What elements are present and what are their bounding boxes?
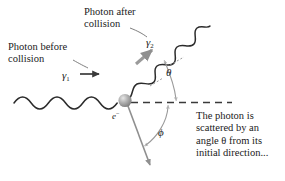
symbol-scattered-photon: γ2	[146, 36, 154, 49]
compton-scattering-figure: Photon before collision Photon after col…	[0, 0, 285, 181]
electron-recoil-arrow	[128, 106, 150, 165]
electron-sphere	[118, 94, 131, 107]
symbol-electron: e−	[112, 110, 120, 121]
phi-angle-arc	[146, 107, 168, 145]
label-photon-before-collision: Photon before collision	[8, 41, 67, 66]
scattered-photon-wave	[128, 26, 210, 100]
gamma-subscript: 1	[66, 75, 69, 82]
callout-scattering-explanation: The photon is scattered by an angle θ fr…	[196, 110, 268, 160]
leader-line-photon-before	[73, 60, 88, 68]
electron-charge-superscript: −	[116, 110, 120, 117]
symbol-phi-angle: ϕ	[158, 126, 164, 138]
scattered-photon-pointer-arrow	[136, 50, 152, 64]
gamma-subscript: 2	[150, 42, 153, 49]
incident-photon-wave	[14, 97, 117, 109]
symbol-incident-photon: γ1	[62, 69, 70, 82]
label-photon-after-collision: Photon after collision	[84, 6, 136, 31]
symbol-theta-angle: θ	[166, 66, 171, 78]
